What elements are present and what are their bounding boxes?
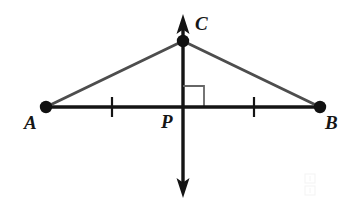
point-label-P: P bbox=[161, 112, 173, 131]
geometry-canvas bbox=[0, 0, 349, 206]
segment-AC bbox=[46, 41, 183, 107]
right-angle-marker bbox=[183, 86, 204, 107]
point-label-B: B bbox=[325, 113, 338, 132]
geometry-diagram: A B C P bbox=[0, 0, 349, 206]
faint-watermark-icon bbox=[300, 172, 322, 198]
vertex-dot-C bbox=[177, 35, 189, 47]
point-label-A: A bbox=[24, 113, 37, 132]
point-label-C: C bbox=[195, 14, 208, 33]
vertex-dot-A bbox=[40, 101, 52, 113]
